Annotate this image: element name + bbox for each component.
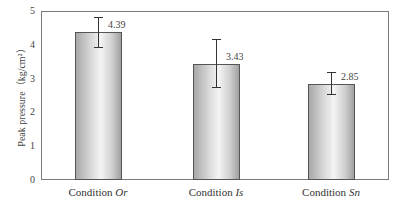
error-bar	[331, 72, 332, 95]
x-category-label: Condition Sn	[302, 186, 360, 198]
bar	[308, 84, 355, 180]
error-bar-cap	[327, 94, 336, 95]
x-category-label: Condition Is	[189, 186, 244, 198]
error-bar	[98, 17, 99, 47]
bar	[75, 32, 122, 180]
y-tick-label: 5	[15, 5, 35, 16]
y-axis-label: Peak pressure（kg/cm²）	[13, 43, 28, 146]
bar-chart: 012345 Peak pressure（kg/cm²） 4.39Conditi…	[0, 0, 407, 209]
error-bar-cap	[212, 39, 221, 40]
error-bar-cap	[94, 17, 103, 18]
y-tick-label: 0	[15, 174, 35, 185]
value-label: 4.39	[108, 19, 126, 30]
error-bar-cap	[94, 47, 103, 48]
error-bar	[216, 39, 217, 87]
value-label: 2.85	[341, 71, 359, 82]
value-label: 3.43	[226, 51, 244, 62]
error-bar-cap	[327, 72, 336, 73]
x-category-label: Condition Or	[69, 186, 128, 198]
error-bar-cap	[212, 87, 221, 88]
